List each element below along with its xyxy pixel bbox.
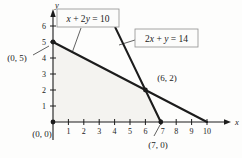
x-tick-label: 3 <box>97 127 101 136</box>
x-tick-label: 5 <box>128 127 132 136</box>
y-tick-label: 1 <box>42 102 46 111</box>
point-dot <box>51 120 56 125</box>
equation-label-text-2: 2x + y = 14 <box>145 34 188 44</box>
x-tick-label: 10 <box>203 127 211 136</box>
point-label: (0, 0) <box>32 129 52 139</box>
y-tick-label: 2 <box>42 86 46 95</box>
y-axis-label: y <box>54 0 59 10</box>
point-leader-line <box>154 125 160 136</box>
point-leader-line <box>33 46 49 55</box>
x-tick-label: 1 <box>66 127 70 136</box>
y-tick-label: 4 <box>42 54 46 63</box>
y-tick-label: 6 <box>42 22 46 31</box>
x-tick-label: 9 <box>190 127 194 136</box>
point-dot <box>51 40 56 45</box>
point-dot <box>143 88 148 93</box>
x-axis-label: x <box>234 117 239 127</box>
y-tick-label: 3 <box>42 70 46 79</box>
point-dot <box>158 120 163 125</box>
linear-system-figure: yx12345678910123456x + 2y = 102x + y = 1… <box>0 0 242 158</box>
x-tick-label: 2 <box>82 127 86 136</box>
point-label: (7, 0) <box>148 140 168 150</box>
point-label: (6, 2) <box>157 73 177 83</box>
y-axis-arrowhead <box>50 9 55 17</box>
y-tick-label: 5 <box>42 38 46 47</box>
x-axis-arrowhead <box>224 119 231 124</box>
equation-label-text-1: x + 2y = 10 <box>66 14 110 24</box>
point-label: (0, 5) <box>7 53 27 63</box>
x-tick-label: 6 <box>143 127 147 136</box>
equation-leader-line-1 <box>72 28 81 53</box>
feasible-region <box>53 42 161 122</box>
x-tick-label: 4 <box>113 127 117 136</box>
x-tick-label: 8 <box>174 127 178 136</box>
x-tick-label: 7 <box>161 127 165 136</box>
plot-svg: yx12345678910123456x + 2y = 102x + y = 1… <box>0 0 242 158</box>
